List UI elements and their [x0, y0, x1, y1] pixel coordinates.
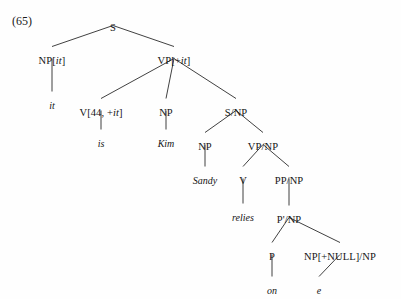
terminal-relies: relies	[232, 212, 254, 223]
node-npit: NP[it]	[39, 55, 66, 66]
node-p: P	[269, 251, 275, 262]
node-npkim: NP	[159, 107, 173, 118]
node-vpplusit: VP[+it]	[158, 55, 191, 66]
terminal-e: e	[317, 285, 321, 296]
node-v44: V[44, +it]	[79, 107, 122, 118]
terminal-is: is	[98, 138, 105, 149]
terminal-on: on	[267, 285, 277, 296]
node-pbarslashnp: P'/NP	[277, 214, 302, 225]
terminal-sandy: Sandy	[193, 175, 217, 186]
node-ppslashnp: PP/NP	[275, 175, 304, 186]
terminal-it: it	[49, 100, 55, 111]
syntax-tree-figure: (65) SNP[it]VP[+it]itV[44, +it]NPS/NPisK…	[0, 0, 401, 299]
terminal-kim: Kim	[158, 138, 175, 149]
node-s: S	[110, 22, 116, 33]
example-number: (65)	[12, 14, 32, 29]
edge-s-to-vpplusit	[113, 26, 174, 47]
node-sslashnp: S/NP	[225, 107, 248, 118]
node-v: V	[239, 175, 247, 186]
node-npsandy: NP	[198, 141, 212, 152]
edge-s-to-npit	[52, 26, 113, 47]
node-npnull: NP[+NULL]/NP	[304, 251, 376, 262]
node-vpslashnp: VP/NP	[248, 141, 278, 152]
